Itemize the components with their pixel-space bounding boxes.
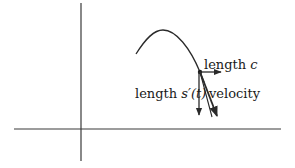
- trajectory-curve: [136, 30, 204, 82]
- velocity-label: velocity: [208, 86, 261, 101]
- horizontal-component-label: length c: [204, 57, 258, 72]
- vertical-component-label: length s′(t): [135, 86, 206, 101]
- velocity-decomposition-diagram: length c length s′(t) velocity: [0, 0, 295, 168]
